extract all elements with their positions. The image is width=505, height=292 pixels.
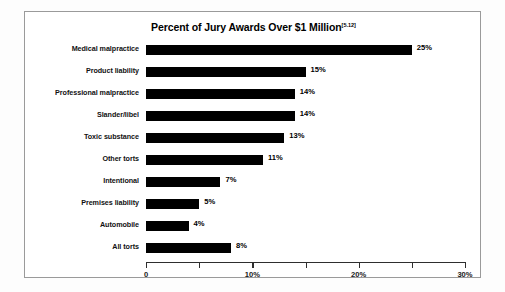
bar-value-label: 11%: [268, 153, 283, 162]
bar-value-label: 8%: [236, 241, 247, 250]
bar-value-label: 5%: [204, 197, 215, 206]
bar-row: Slander/libel14%: [25, 106, 482, 128]
bar-value-label: 25%: [417, 43, 432, 52]
bar-value-label: 14%: [300, 87, 315, 96]
category-label: Premises liability: [25, 198, 139, 207]
category-label: Other torts: [25, 154, 139, 163]
bar-value-label: 13%: [289, 131, 304, 140]
x-axis-tick-label: 0: [144, 270, 148, 279]
bar-row: All torts8%: [25, 238, 482, 260]
category-label: Medical malpractice: [25, 44, 139, 53]
x-axis-tick-label: 20%: [351, 270, 366, 279]
bar-value-label: 4%: [194, 219, 205, 228]
category-label: Slander/libel: [25, 110, 139, 119]
category-label: Intentional: [25, 176, 139, 185]
bar: [146, 199, 199, 209]
bar-value-label: 7%: [225, 175, 236, 184]
x-axis-tick: [465, 262, 466, 268]
bar-row: Medical malpractice25%: [25, 40, 482, 62]
bar-row: Product liability15%: [25, 62, 482, 84]
bar: [146, 155, 263, 165]
x-axis-tick: [412, 262, 413, 268]
bar: [146, 221, 189, 231]
bar: [146, 89, 295, 99]
bar: [146, 177, 220, 187]
x-axis-tick: [359, 262, 360, 268]
page-background: Percent of Jury Awards Over $1 Million[5…: [0, 0, 505, 292]
category-label: Professional malpractice: [25, 88, 139, 97]
x-axis-tick: [306, 262, 307, 268]
bar-row: Other torts11%: [25, 150, 482, 172]
x-axis-tick: [252, 262, 253, 268]
bar-row: Toxic substance13%: [25, 128, 482, 150]
bar-row: Intentional7%: [25, 172, 482, 194]
bar: [146, 67, 306, 77]
bar: [146, 111, 295, 121]
x-axis-tick: [146, 262, 147, 268]
bar: [146, 133, 284, 143]
category-label: Product liability: [25, 66, 139, 75]
bar-value-label: 15%: [311, 65, 326, 74]
chart-title: Percent of Jury Awards Over $1 Million[5…: [25, 21, 482, 33]
category-label: Toxic substance: [25, 132, 139, 141]
bar-row: Automobile4%: [25, 216, 482, 238]
x-axis-tick-label: 10%: [245, 270, 260, 279]
chart-frame: Percent of Jury Awards Over $1 Million[5…: [24, 11, 481, 278]
chart-title-superscript: [5.12]: [342, 22, 356, 28]
bar: [146, 243, 231, 253]
x-axis-tick: [199, 262, 200, 268]
bar-row: Professional malpractice14%: [25, 84, 482, 106]
bar-value-label: 14%: [300, 109, 315, 118]
plot-area: Medical malpractice25%Product liability1…: [25, 40, 482, 279]
bar-row: Premises liability5%: [25, 194, 482, 216]
category-label: Automobile: [25, 220, 139, 229]
category-label: All torts: [25, 242, 139, 251]
x-axis-tick-label: 30%: [457, 270, 472, 279]
bar: [146, 45, 412, 55]
chart-title-text: Percent of Jury Awards Over $1 Million: [151, 21, 342, 33]
